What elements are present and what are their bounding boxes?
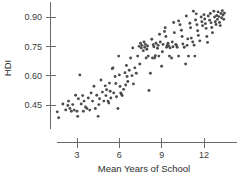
data-point (76, 115, 79, 118)
data-point (105, 88, 108, 91)
data-point (187, 55, 190, 58)
data-point (119, 85, 122, 88)
data-point (185, 15, 188, 18)
data-point (211, 31, 214, 34)
data-point (193, 55, 196, 58)
data-point (118, 73, 121, 76)
data-point (217, 10, 220, 13)
data-point (212, 10, 215, 13)
data-point (145, 57, 148, 60)
data-point (198, 39, 201, 42)
data-point (145, 48, 148, 51)
data-point (70, 110, 73, 113)
data-point (81, 94, 84, 97)
data-point (156, 47, 159, 50)
data-point (140, 44, 143, 47)
data-point (181, 35, 184, 38)
data-point (126, 75, 129, 78)
data-point (104, 94, 107, 97)
data-point (76, 110, 79, 113)
data-point (152, 45, 155, 48)
data-point (158, 33, 161, 36)
data-point (66, 104, 69, 107)
data-point (64, 108, 67, 111)
data-point (193, 44, 196, 47)
x-axis-title: Mean Years of School (98, 163, 190, 174)
data-point (77, 97, 80, 100)
data-point (191, 41, 194, 44)
data-point (149, 72, 152, 75)
data-point (136, 55, 139, 58)
data-point (88, 109, 91, 112)
data-point (131, 74, 134, 77)
data-point (148, 89, 151, 92)
x-tick-label: 9 (159, 150, 164, 160)
data-point (186, 37, 189, 40)
data-point (196, 29, 199, 32)
data-point (151, 57, 154, 60)
data-point (94, 107, 97, 110)
data-point (67, 100, 70, 103)
data-point (85, 107, 88, 110)
data-point (200, 16, 203, 19)
data-point (147, 55, 150, 58)
data-point (80, 103, 83, 106)
plot-area: 0.450.600.750.90 36912 Mean Years of Sch… (0, 0, 244, 184)
data-point (131, 46, 134, 49)
data-point (179, 23, 182, 26)
data-point (82, 110, 85, 113)
y-axis-title: HDI (2, 60, 13, 76)
data-point (171, 41, 174, 44)
data-point (107, 102, 110, 105)
data-point (170, 57, 173, 60)
data-point (172, 45, 175, 48)
data-point (78, 73, 81, 76)
data-point (162, 43, 165, 46)
data-point (192, 10, 195, 13)
data-point (154, 54, 157, 57)
data-point (90, 91, 93, 94)
data-point (74, 94, 77, 97)
data-point (112, 91, 115, 94)
data-point (92, 85, 95, 88)
data-point (157, 55, 160, 58)
data-point (138, 62, 141, 65)
y-tick-label: 0.90 (24, 12, 42, 22)
data-point (217, 15, 220, 18)
x-axis-ticks: 36912 (74, 138, 209, 161)
data-point (206, 41, 209, 44)
data-points-layer (56, 9, 226, 119)
data-point (167, 42, 170, 45)
y-tick-label: 0.45 (24, 100, 42, 110)
data-point (114, 82, 117, 85)
data-point (197, 34, 200, 37)
data-point (205, 35, 208, 38)
data-point (159, 41, 162, 44)
x-tick-label: 12 (199, 150, 209, 160)
data-point (177, 55, 180, 58)
data-point (109, 97, 112, 100)
data-point (114, 75, 117, 78)
x-tick-label: 3 (74, 150, 79, 160)
y-tick-label: 0.60 (24, 71, 42, 81)
data-point (108, 82, 111, 85)
x-tick-label: 6 (117, 150, 122, 160)
data-point (204, 22, 207, 25)
data-point (172, 21, 175, 24)
data-point (188, 22, 191, 25)
data-point (143, 46, 146, 49)
data-point (132, 82, 135, 85)
y-tick-label: 0.75 (24, 42, 42, 52)
data-point (140, 46, 143, 49)
data-point (97, 103, 100, 106)
data-point (125, 64, 128, 67)
data-point (98, 97, 101, 100)
data-point (195, 12, 198, 15)
data-point (164, 35, 167, 38)
data-point (222, 18, 225, 21)
data-point (61, 103, 64, 106)
data-point (208, 19, 211, 22)
data-point (190, 37, 193, 40)
data-point (203, 13, 206, 16)
data-point (163, 30, 166, 33)
